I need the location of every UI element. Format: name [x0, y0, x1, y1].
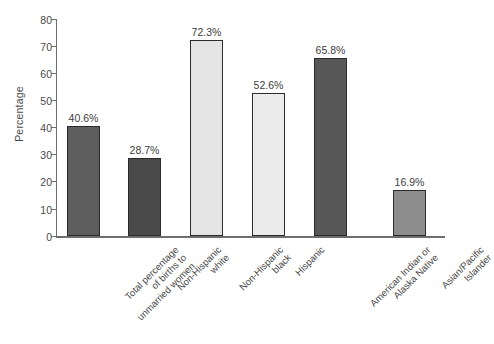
bar-value-0: 40.6%	[55, 112, 112, 124]
bar-4[interactable]	[314, 58, 347, 236]
bar-value-3: 52.6%	[240, 79, 297, 91]
y-tick-label-20: 20	[0, 176, 52, 188]
x-axis-line	[56, 236, 445, 238]
bar-0[interactable]	[67, 126, 100, 236]
bar-value-5: 16.9%	[381, 176, 438, 188]
bar-value-4: 65.8%	[302, 44, 359, 56]
x-label-2: Non-Hispanicblack	[237, 244, 294, 301]
x-label-4: American Indian orAlaska Native	[368, 244, 441, 317]
x-label-line: Hispanic	[293, 244, 327, 278]
y-tick-label-50: 50	[0, 95, 52, 107]
y-tick-label-80: 80	[0, 14, 52, 26]
bar-3[interactable]	[252, 93, 285, 236]
y-tick-label-30: 30	[0, 149, 52, 161]
y-tick-label-70: 70	[0, 41, 52, 53]
x-label-3: Hispanic	[293, 244, 327, 278]
bar-2[interactable]	[190, 40, 223, 236]
bar-value-1: 28.7%	[116, 144, 173, 156]
y-tick-label-60: 60	[0, 68, 52, 80]
bar-5[interactable]	[393, 190, 426, 236]
y-tick-label-0: 0	[0, 231, 52, 243]
y-axis-line	[56, 19, 57, 237]
bar-1[interactable]	[128, 158, 161, 236]
y-tick-label-10: 10	[0, 204, 52, 216]
x-label-5: Asian/PacificIslander	[439, 244, 494, 299]
y-tick-label-40: 40	[0, 122, 52, 134]
bar-value-2: 72.3%	[178, 26, 235, 38]
